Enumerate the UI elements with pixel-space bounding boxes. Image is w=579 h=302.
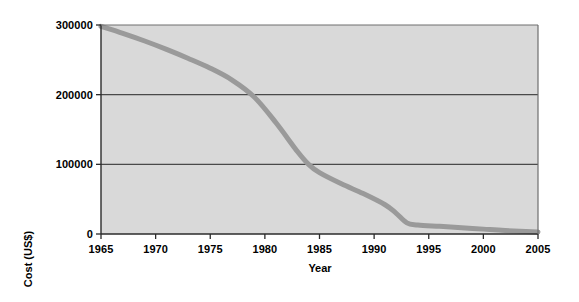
x-tick-label: 1990 xyxy=(362,243,387,255)
x-axis-title: Year xyxy=(308,262,331,274)
x-tick-label: 1975 xyxy=(198,243,223,255)
x-tick-label: 1970 xyxy=(143,243,168,255)
line-chart-plot xyxy=(0,0,579,302)
y-tick-label: 0 xyxy=(87,228,93,240)
x-tick-label: 1980 xyxy=(252,243,277,255)
plot-background xyxy=(101,25,538,234)
x-tick-label: 1995 xyxy=(416,243,441,255)
x-tick-label: 2000 xyxy=(471,243,496,255)
x-tick-label: 1985 xyxy=(307,243,332,255)
y-axis-title: Cost (US$) xyxy=(22,199,34,302)
x-tick-label: 1965 xyxy=(89,243,114,255)
y-axis-ticks xyxy=(96,25,101,234)
y-tick-label: 200000 xyxy=(56,89,93,101)
y-tick-label: 300000 xyxy=(56,19,93,31)
y-tick-label: 100000 xyxy=(56,158,93,170)
x-tick-label: 2005 xyxy=(526,243,551,255)
chart-figure: 0100000200000300000 19651970197519801985… xyxy=(0,0,579,302)
x-axis-ticks xyxy=(101,234,538,239)
